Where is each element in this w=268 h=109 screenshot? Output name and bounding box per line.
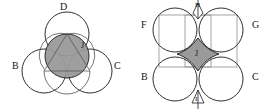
label-center-shape-j: J <box>81 41 84 51</box>
circle-f <box>153 8 197 52</box>
left-diagram: D B C J <box>0 0 134 109</box>
label-circle-c: C <box>114 61 121 71</box>
figure-canvas: D B C J F G B C J H I <box>0 0 268 109</box>
label-circle-c: C <box>252 72 259 82</box>
label-circle-b: B <box>141 72 148 82</box>
label-circle-b: B <box>12 61 19 71</box>
right-diagram-svg <box>134 0 268 109</box>
label-circle-f: F <box>141 20 147 30</box>
circle-g <box>199 8 243 52</box>
label-center-shape-j: J <box>195 49 198 59</box>
left-diagram-svg <box>0 0 134 109</box>
label-gap-shape-h: H <box>195 0 200 10</box>
label-circle-d: D <box>60 2 67 12</box>
circle-c <box>199 57 243 101</box>
right-diagram: F G B C J H I <box>134 0 268 109</box>
label-gap-shape-i: I <box>195 94 198 104</box>
label-circle-g: G <box>252 20 259 30</box>
circle-b <box>153 57 197 101</box>
